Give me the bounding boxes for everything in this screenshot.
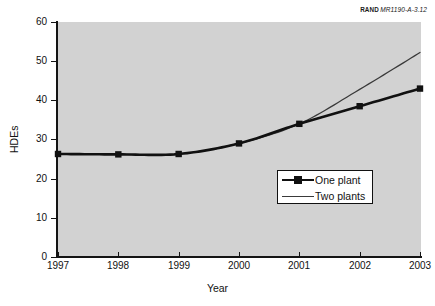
y-axis-tick xyxy=(51,22,57,23)
x-axis-tick xyxy=(58,252,59,257)
rand-logo-text: RAND xyxy=(360,6,379,13)
y-axis-tick xyxy=(51,139,57,140)
y-axis-tick xyxy=(51,257,57,258)
y-axis-tick-label: 10 xyxy=(36,213,47,223)
x-axis-tick-label: 2003 xyxy=(400,261,435,271)
y-axis-title-wrap: HDEs xyxy=(6,118,22,168)
x-axis-title: Year xyxy=(0,283,435,294)
x-axis-tick-label: 1998 xyxy=(98,261,138,271)
y-axis-tick xyxy=(51,179,57,180)
y-axis-title: HDEs xyxy=(9,114,20,164)
legend-item-one-plant[interactable]: One plant xyxy=(278,172,372,188)
y-axis-tick-label: 20 xyxy=(36,174,47,184)
legend-swatch-one-plant xyxy=(281,173,315,187)
x-axis-tick xyxy=(299,252,300,257)
y-axis-tick-label: 50 xyxy=(36,56,47,66)
legend-label-one-plant: One plant xyxy=(315,175,361,186)
y-axis-tick-label: 30 xyxy=(36,134,47,144)
x-axis-tick xyxy=(179,252,180,257)
legend-item-two-plants[interactable]: Two plants xyxy=(278,188,372,204)
y-axis-tick xyxy=(51,61,57,62)
x-axis-tick-label: 2000 xyxy=(219,261,259,271)
x-axis-tick-label: 1999 xyxy=(159,261,199,271)
x-axis-tick-label: 2001 xyxy=(279,261,319,271)
legend-label-two-plants: Two plants xyxy=(315,191,365,202)
x-axis-tick-label: 2002 xyxy=(340,261,380,271)
figure: RANDMR1190-A-3.12 60 50 40 30 20 10 0 19… xyxy=(0,0,435,306)
x-axis-tick xyxy=(239,252,240,257)
chart-legend[interactable]: One plant Two plants xyxy=(277,170,373,204)
source-identifier: RANDMR1190-A-3.12 xyxy=(360,7,427,14)
y-axis-tick xyxy=(51,100,57,101)
rand-report-code: MR1190-A-3.12 xyxy=(380,6,427,13)
y-axis-tick-label: 60 xyxy=(36,17,47,27)
legend-swatch-two-plants xyxy=(281,189,315,203)
x-axis-tick-label: 1997 xyxy=(38,261,78,271)
x-axis-tick xyxy=(420,252,421,257)
y-axis-tick xyxy=(51,218,57,219)
y-axis-tick-label: 40 xyxy=(36,95,47,105)
plot-area xyxy=(57,22,421,257)
x-axis-tick xyxy=(360,252,361,257)
x-axis-tick xyxy=(118,252,119,257)
